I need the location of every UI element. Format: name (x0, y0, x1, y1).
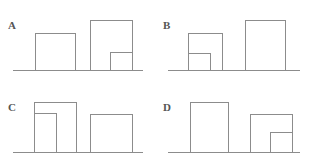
panel-label-c: C (8, 101, 16, 113)
panel-b: B (163, 19, 300, 71)
right-rectangle (246, 21, 286, 71)
figure-canvas: ABCD (0, 0, 311, 165)
inner-rectangle (189, 54, 211, 71)
left-rectangle (191, 103, 229, 153)
left-rectangle (35, 103, 77, 153)
figure-root: ABCD (0, 0, 311, 165)
left-rectangle (36, 34, 76, 71)
inner-rectangle (271, 133, 293, 153)
panel-a: A (8, 19, 143, 71)
right-rectangle (91, 115, 133, 153)
panel-c: C (8, 101, 143, 153)
panel-label-d: D (163, 101, 171, 113)
panel-label-a: A (8, 19, 16, 31)
panel-label-b: B (163, 19, 171, 31)
right-rectangle (251, 115, 293, 153)
left-rectangle (189, 34, 223, 71)
right-rectangle (91, 21, 133, 71)
inner-rectangle (111, 53, 133, 71)
panels-group: ABCD (8, 19, 300, 153)
panel-d: D (163, 101, 300, 153)
inner-rectangle (35, 114, 57, 153)
